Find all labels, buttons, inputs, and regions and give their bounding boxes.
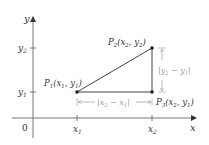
y2-tick-label: y2 bbox=[17, 43, 27, 54]
p3-label: P3(x2, y1) bbox=[155, 97, 194, 108]
axes bbox=[12, 17, 196, 138]
y-axis-label: y bbox=[23, 13, 30, 24]
point-p2 bbox=[150, 46, 154, 50]
hypotenuse bbox=[77, 48, 152, 92]
x2-tick-label: x2 bbox=[148, 124, 157, 135]
origin-label: 0 bbox=[22, 123, 28, 133]
x1-tick-label: x1 bbox=[73, 124, 82, 135]
p2-label: P2(x2, y2) bbox=[107, 37, 146, 48]
horizontal-distance-label: |x2 − x1| bbox=[97, 98, 130, 108]
distance-formula-diagram: y x 0 x1 x2 y1 y2 P1(x1, y1) P2(x2, y2) … bbox=[0, 0, 209, 145]
point-p1 bbox=[75, 90, 79, 94]
x-axis-label: x bbox=[190, 122, 196, 133]
p1-label: P1(x1, y1) bbox=[43, 78, 82, 89]
point-p3 bbox=[150, 90, 154, 94]
y1-tick-label: y1 bbox=[17, 87, 27, 98]
vertical-distance-label: |y2 − y1| bbox=[158, 66, 191, 76]
right-triangle bbox=[75, 46, 154, 94]
